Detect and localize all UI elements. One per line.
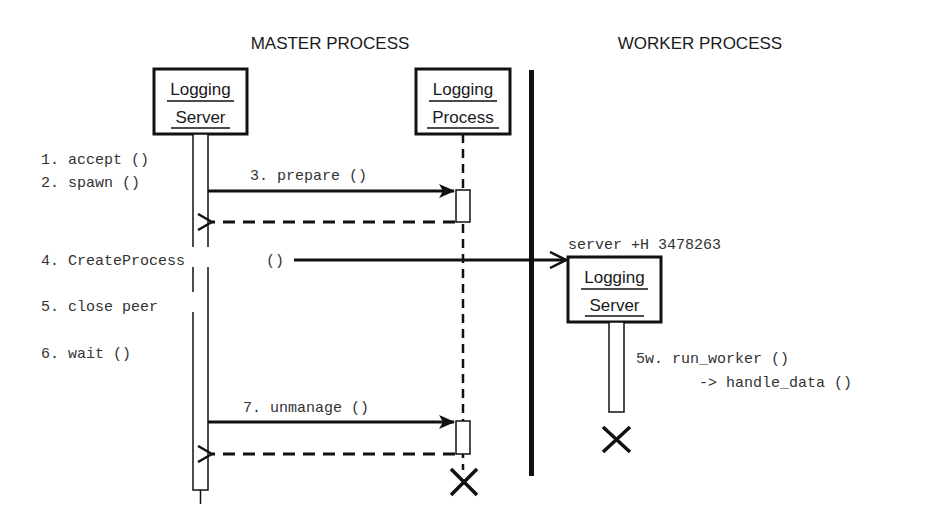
unmanage-activation-box	[456, 421, 470, 454]
worker-destroy-x-icon	[603, 427, 630, 452]
worker-process-title: WORKER PROCESS	[618, 34, 782, 53]
step-3-prepare-label: 3. prepare ()	[250, 168, 367, 185]
participant-master-logging-server[interactable]: Logging Server	[154, 69, 247, 134]
step-5-close-peer: 5. close peer	[41, 299, 158, 316]
participant-label-line2: Server	[589, 296, 639, 315]
sequence-diagram: MASTER PROCESS WORKER PROCESS Logging Se…	[0, 0, 934, 521]
participant-label-line1: Logging	[584, 268, 645, 287]
participant-logging-process[interactable]: Logging Process	[416, 69, 510, 134]
worker-command-line: server +H 3478263	[568, 237, 721, 254]
participant-worker-logging-server[interactable]: Logging Server	[568, 257, 661, 322]
step-4-createprocess-label: 4. CreateProcess	[41, 253, 185, 270]
worker-server-activation-bar	[609, 322, 624, 412]
participant-label-line2: Server	[175, 108, 225, 127]
step-6-wait: 6. wait ()	[41, 346, 131, 363]
step-1-accept: 1. accept ()	[41, 152, 149, 169]
step-4-parens: ()	[266, 253, 284, 270]
master-process-title: MASTER PROCESS	[251, 34, 410, 53]
step-5w-handle-data: -> handle_data ()	[699, 375, 852, 392]
step-5w-run-worker: 5w. run_worker ()	[636, 351, 789, 368]
prepare-activation-box	[456, 190, 470, 222]
participant-label-line1: Logging	[170, 80, 231, 99]
participant-label-line1: Logging	[433, 80, 494, 99]
logging-process-destroy-x-icon	[451, 469, 477, 495]
process-boundary-divider	[529, 70, 534, 476]
step-2-spawn: 2. spawn ()	[41, 175, 140, 192]
step-7-unmanage-label: 7. unmanage ()	[243, 400, 369, 417]
participant-label-line2: Process	[432, 108, 493, 127]
